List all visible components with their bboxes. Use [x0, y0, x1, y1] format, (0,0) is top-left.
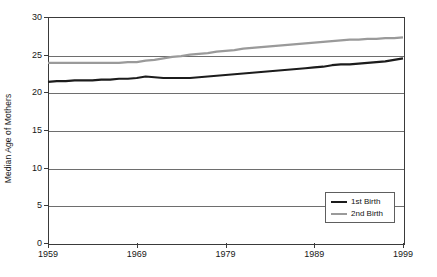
y-axis-tick-mark [44, 17, 48, 18]
y-axis-tick-label: 30 [20, 13, 42, 22]
chart-legend: 1st Birth 2nd Birth [325, 192, 395, 223]
legend-item-label: 2nd Birth [351, 210, 383, 218]
x-axis-tick-mark [48, 243, 49, 248]
x-axis-tick-mark [137, 243, 138, 248]
y-axis-tick-label: 15 [20, 126, 42, 135]
y-axis-tick-label: 0 [20, 239, 42, 248]
x-axis-tick-mark [403, 243, 404, 248]
y-axis-tick-label: 20 [20, 88, 42, 97]
y-axis-tick-label: 10 [20, 163, 42, 172]
x-axis-tick-label: 1989 [289, 250, 339, 259]
legend-item-label: 1st Birth [351, 198, 380, 206]
y-axis-tick-mark [44, 205, 48, 206]
x-axis-tick-label: 1969 [112, 250, 162, 259]
x-axis-tick-label: 1999 [378, 250, 428, 259]
legend-item-2nd-birth: 2nd Birth [330, 208, 390, 220]
chart-container: Median Age of Mothers 051015202530 19591… [0, 0, 437, 277]
legend-swatch-icon [331, 213, 347, 215]
y-axis-title: Median Age of Mothers [0, 0, 16, 277]
y-axis-tick-label: 25 [20, 50, 42, 59]
y-axis-tick-mark [44, 168, 48, 169]
y-axis-tick-mark [44, 92, 48, 93]
x-axis-tick-mark [314, 243, 315, 248]
x-axis-tick-label: 1979 [201, 250, 251, 259]
legend-swatch-icon [331, 201, 347, 203]
y-axis-tick-mark [44, 55, 48, 56]
y-axis-tick-label: 5 [20, 201, 42, 210]
legend-item-1st-birth: 1st Birth [330, 196, 390, 208]
y-axis-tick-labels: 051015202530 [18, 17, 42, 243]
x-axis-tick-mark [226, 243, 227, 248]
y-axis-tick-mark [44, 130, 48, 131]
series-line [48, 37, 403, 63]
x-axis-tick-label: 1959 [23, 250, 73, 259]
